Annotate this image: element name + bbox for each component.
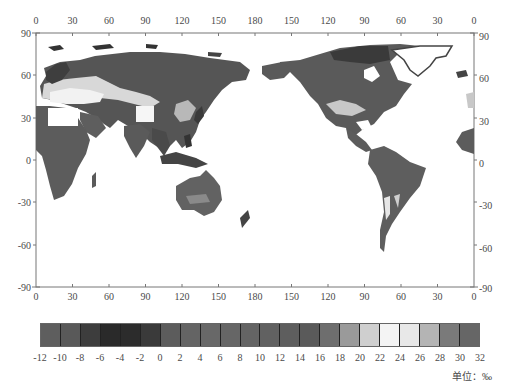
colorbar-bin bbox=[319, 324, 339, 346]
indonesia bbox=[160, 152, 208, 168]
colorbar-bin bbox=[180, 324, 200, 346]
colorbar-tick-label: 26 bbox=[415, 352, 425, 363]
colorbar-bin bbox=[220, 324, 240, 346]
lat-label: 30 bbox=[479, 116, 489, 127]
colorbar-tick-label: 18 bbox=[335, 352, 345, 363]
lon-label: 150 bbox=[284, 15, 299, 26]
lon-label: 90 bbox=[141, 15, 151, 26]
lon-label: 150 bbox=[211, 15, 226, 26]
lon-label: 0 bbox=[472, 15, 477, 26]
lon-label: 120 bbox=[321, 15, 336, 26]
greenland-no-data bbox=[392, 46, 452, 76]
lat-label: 30 bbox=[21, 113, 31, 124]
colorbar-bin bbox=[100, 324, 120, 346]
colorbar-bin bbox=[140, 324, 160, 346]
colorbar-bin bbox=[120, 324, 140, 346]
new-siberian-islands bbox=[208, 52, 222, 57]
india bbox=[124, 124, 150, 158]
lon-label: 60 bbox=[396, 15, 406, 26]
colorbar-bin bbox=[200, 324, 220, 346]
colorbar-tick-label: -10 bbox=[53, 352, 66, 363]
lon-label: 120 bbox=[321, 291, 336, 302]
lat-label: -30 bbox=[18, 197, 31, 208]
colorbar-tick-label: 20 bbox=[355, 352, 365, 363]
colorbar-bin bbox=[259, 324, 279, 346]
colorbar-tick-label: 8 bbox=[238, 352, 243, 363]
colorbar-bin bbox=[399, 324, 419, 346]
new-zealand bbox=[240, 210, 250, 228]
colorbar-tick-label: -12 bbox=[33, 352, 46, 363]
colorbar-tick-label: 30 bbox=[455, 352, 465, 363]
lon-label: 0 bbox=[34, 15, 39, 26]
tibet-plateau bbox=[136, 106, 154, 122]
colorbar-bin bbox=[279, 324, 299, 346]
lon-label: 30 bbox=[433, 291, 443, 302]
lon-label: 150 bbox=[284, 291, 299, 302]
colorbar-bin bbox=[439, 324, 459, 346]
iberia-right-edge bbox=[466, 92, 474, 108]
lon-label: 90 bbox=[360, 291, 370, 302]
sahara-no-data bbox=[48, 108, 78, 126]
colorbar-tick-label: 32 bbox=[475, 352, 485, 363]
lat-label: -90 bbox=[18, 282, 31, 293]
severnaya-zemlya bbox=[146, 44, 158, 49]
madagascar bbox=[92, 172, 96, 188]
colorbar-tick-label: 16 bbox=[315, 352, 325, 363]
lon-label: 30 bbox=[68, 291, 78, 302]
lat-label: 90 bbox=[479, 31, 489, 42]
lat-label: -60 bbox=[18, 240, 31, 251]
colorbar-tick-label: -2 bbox=[136, 352, 144, 363]
colorbar-tick-label: 4 bbox=[198, 352, 203, 363]
colorbar-tick-label: 10 bbox=[255, 352, 265, 363]
colorbar-bin bbox=[299, 324, 319, 346]
lon-label: 90 bbox=[141, 291, 151, 302]
colorbar-bin bbox=[240, 324, 260, 346]
colorbar-tick-label: 24 bbox=[395, 352, 405, 363]
colorbar-tick-label: -4 bbox=[116, 352, 124, 363]
colorbar-bin bbox=[160, 324, 180, 346]
lon-label: 30 bbox=[433, 15, 443, 26]
colorbar-tick-label: 14 bbox=[295, 352, 305, 363]
lon-label: 120 bbox=[175, 291, 190, 302]
unit-label: 单位：‰ bbox=[452, 368, 492, 383]
colorbar-tick-label: 12 bbox=[275, 352, 285, 363]
iceland bbox=[456, 70, 468, 78]
lon-label: 90 bbox=[360, 15, 370, 26]
colorbar-tick-label: -6 bbox=[96, 352, 104, 363]
colorbar-tick-label: -8 bbox=[76, 352, 84, 363]
lat-label: 0 bbox=[26, 155, 31, 166]
novaya-zemlya bbox=[92, 44, 114, 50]
colorbar-tick-label: 2 bbox=[178, 352, 183, 363]
colorbar-bin bbox=[80, 324, 100, 346]
lat-label: 90 bbox=[21, 28, 31, 39]
west-africa-right-edge bbox=[456, 128, 474, 154]
lat-label: 0 bbox=[479, 158, 484, 169]
colorbar-tick-label: 0 bbox=[158, 352, 163, 363]
lon-label: 60 bbox=[104, 291, 114, 302]
australia bbox=[176, 170, 222, 216]
colorbar-tick-label: 28 bbox=[435, 352, 445, 363]
lon-label: 0 bbox=[34, 291, 39, 302]
lon-label: 60 bbox=[396, 291, 406, 302]
lat-label: 60 bbox=[479, 73, 489, 84]
colorbar-bin bbox=[41, 324, 60, 346]
colorbar-bin bbox=[60, 324, 80, 346]
lon-label: 180 bbox=[248, 15, 263, 26]
lon-label: 0 bbox=[472, 291, 477, 302]
svalbard bbox=[48, 45, 64, 51]
lon-label: 180 bbox=[248, 291, 263, 302]
lat-label: -30 bbox=[479, 200, 492, 211]
colorbar-bin bbox=[419, 324, 439, 346]
lat-label: -90 bbox=[479, 283, 492, 294]
lon-label: 30 bbox=[68, 15, 78, 26]
lon-label: 150 bbox=[211, 291, 226, 302]
colorbar-bin bbox=[359, 324, 379, 346]
lat-label: -60 bbox=[479, 243, 492, 254]
colorbar-bin bbox=[339, 324, 359, 346]
colorbar bbox=[40, 323, 480, 347]
colorbar-bin bbox=[379, 324, 399, 346]
lat-label: 60 bbox=[21, 70, 31, 81]
lon-label: 120 bbox=[175, 15, 190, 26]
colorbar-tick-label: 6 bbox=[218, 352, 223, 363]
colorbar-bin bbox=[459, 324, 479, 346]
